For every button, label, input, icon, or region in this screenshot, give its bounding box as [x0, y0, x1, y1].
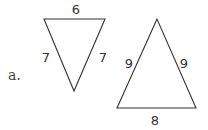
- triangles-diagram: a. 6 7 7 9 9 8: [0, 0, 208, 130]
- inverted-triangle: [44, 19, 105, 91]
- side-label-left: 9: [125, 56, 133, 71]
- side-label-right: 9: [180, 56, 188, 71]
- side-label-top: 6: [72, 2, 80, 17]
- side-label-right: 7: [99, 50, 107, 65]
- part-label: a.: [8, 67, 21, 83]
- side-label-left: 7: [42, 50, 50, 65]
- side-label-bottom: 8: [151, 113, 159, 128]
